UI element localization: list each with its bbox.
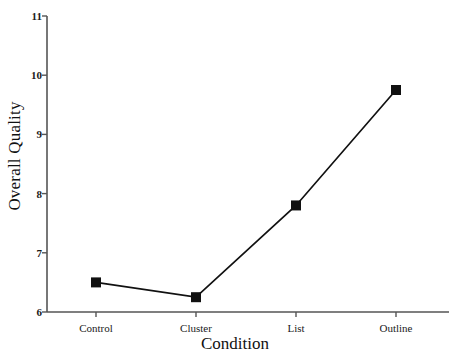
x-tick-label-text: Cluster	[180, 322, 212, 334]
data-point-marker	[391, 85, 401, 95]
data-series-line	[96, 90, 396, 297]
y-tick-label-text: 11	[24, 10, 42, 22]
data-point-marker	[291, 200, 301, 210]
y-tick-label-text: 8	[24, 188, 42, 200]
data-point-marker	[191, 292, 201, 302]
x-axis-title-text: Condition	[201, 334, 269, 353]
y-tick-label-text: 6	[24, 306, 42, 318]
y-tick-label-text: 10	[24, 69, 42, 81]
chart-container: Overall Quality 67891011 ControlClusterL…	[0, 0, 458, 360]
x-tick-label-text: Outline	[380, 322, 413, 334]
x-tick-label-text: Control	[79, 322, 113, 334]
y-tick-label-text: 7	[24, 247, 42, 259]
x-axis-title: Condition	[47, 334, 423, 354]
y-tick-label-text: 9	[24, 128, 42, 140]
data-point-marker	[91, 277, 101, 287]
plot-area	[0, 0, 458, 360]
data-point-markers	[91, 85, 401, 302]
x-tick-label-text: List	[287, 322, 304, 334]
